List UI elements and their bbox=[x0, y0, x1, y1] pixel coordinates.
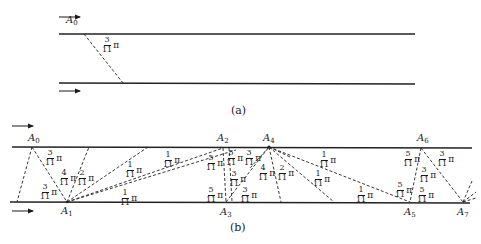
angle-label: 311π bbox=[40, 183, 57, 201]
angle-label-a: 311π bbox=[102, 36, 119, 54]
point-label-a7: A7 bbox=[457, 207, 469, 219]
point-label-a6: A6 bbox=[417, 133, 429, 145]
point-label-a0: A0 bbox=[66, 15, 78, 27]
angle-label: 411π bbox=[59, 169, 76, 187]
angle-label: 111π bbox=[319, 151, 336, 169]
angle-label: 511π bbox=[206, 186, 223, 204]
angle-label: 311π bbox=[419, 166, 436, 184]
angle-label: 211π bbox=[277, 164, 294, 182]
angle-label: 111π bbox=[356, 186, 373, 204]
point-label-a2: A2 bbox=[217, 133, 229, 145]
angle-label: 111π bbox=[163, 151, 180, 169]
angle-label: 311π bbox=[437, 150, 454, 168]
angle-label: 511π bbox=[403, 150, 420, 168]
angle-label: 211π bbox=[77, 169, 94, 187]
angle-label: 511π bbox=[226, 149, 243, 167]
angle-label: 511π bbox=[206, 154, 223, 172]
angle-label: 511π bbox=[417, 186, 434, 204]
angle-label: 111π bbox=[120, 189, 137, 207]
angle-label: 311π bbox=[240, 186, 257, 204]
angle-label: 311π bbox=[45, 149, 62, 167]
point-label-a0: A0 bbox=[28, 133, 40, 145]
angle-label: 411π bbox=[258, 164, 275, 182]
boundary-top-b bbox=[12, 147, 472, 148]
caption-a: (a) bbox=[231, 104, 246, 117]
caption-b: (b) bbox=[230, 221, 246, 234]
point-label-a5: A5 bbox=[404, 207, 416, 219]
angle-label: 111π bbox=[125, 161, 142, 179]
point-label-a3: A3 bbox=[220, 207, 232, 219]
boundary-bottom-a bbox=[59, 83, 415, 84]
point-label-a1: A1 bbox=[61, 206, 73, 218]
figure-a bbox=[59, 17, 415, 91]
angle-label: 511π bbox=[395, 181, 412, 199]
point-label-a4: A4 bbox=[263, 133, 275, 145]
angle-label: 111π bbox=[313, 170, 330, 188]
